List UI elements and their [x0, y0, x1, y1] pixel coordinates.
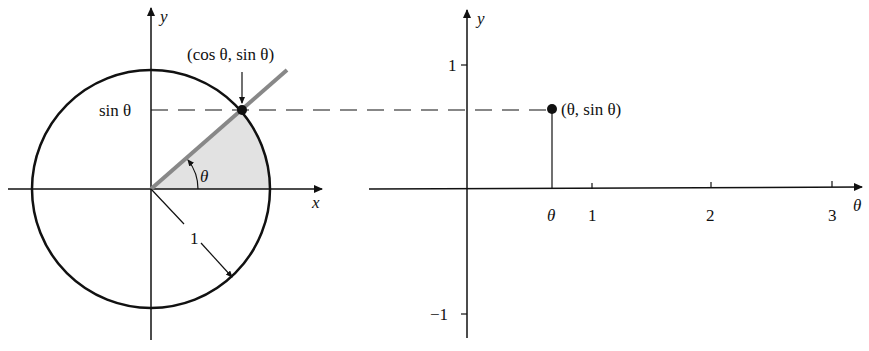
sin-theta-label: sin θ [99, 102, 131, 119]
y-tick-label-neg1: −1 [430, 306, 448, 323]
left-x-axis-label: x [312, 194, 320, 211]
right-x-axis-label: θ [853, 197, 861, 214]
x-tick-label-2: 2 [706, 207, 715, 224]
circle-point [237, 105, 247, 115]
radius-line-b [201, 243, 232, 277]
radius-line-a [151, 189, 184, 224]
right-x-axis [369, 187, 862, 189]
y-tick-label-1: 1 [448, 57, 457, 74]
angle-label: θ [200, 168, 208, 185]
left-y-axis-label: y [160, 8, 168, 25]
x-tick-label-theta: θ [547, 207, 555, 224]
graph-point-label: (θ, sin θ) [561, 101, 621, 118]
x-tick-label-3: 3 [828, 207, 837, 224]
circle-point-label: (cos θ, sin θ) [187, 46, 274, 63]
x-tick-label-1: 1 [588, 207, 597, 224]
graph-point [547, 104, 557, 114]
right-y-axis-label: y [477, 10, 485, 27]
diagram-graphics [0, 0, 869, 351]
shaded-sector [151, 110, 270, 189]
figure-canvas: y x (cos θ, sin θ) sin θ θ 1 y θ (θ, sin… [0, 0, 869, 351]
radius-label: 1 [190, 230, 199, 247]
